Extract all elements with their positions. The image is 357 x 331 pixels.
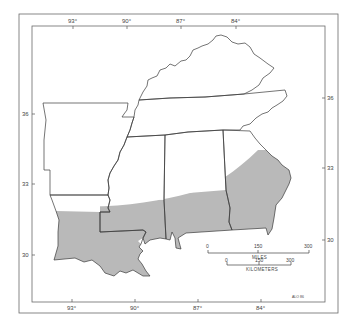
left-lat-label-30: 30	[22, 252, 29, 258]
right-lat-label-36: 36	[327, 95, 334, 101]
scale-km-300: 300	[286, 257, 295, 263]
map-credit: ALO 86	[292, 295, 304, 299]
right-lat-label-30: 30	[327, 237, 334, 243]
bottom-lon-label-84: 84°	[256, 305, 266, 311]
top-lon-label-87: 87°	[176, 18, 186, 24]
left-ticks	[32, 114, 35, 255]
scale-km-title: KILOMETERS	[246, 267, 278, 272]
left-lat-label-36: 36	[22, 111, 29, 117]
scale-miles-150: 150	[254, 243, 263, 249]
top-lon-label-93: 93°	[68, 18, 78, 24]
range-map: 93° 90° 87° 84° 93° 90° 87° 84° 36 33 30…	[0, 0, 357, 331]
bottom-lon-label-90: 90°	[130, 305, 140, 311]
bottom-lon-label-93: 93°	[67, 305, 77, 311]
right-lat-label-33: 33	[327, 165, 334, 171]
state-tennessee	[127, 90, 287, 137]
top-lon-label-90: 90°	[122, 18, 132, 24]
scale-bar-miles	[208, 250, 309, 253]
left-lat-label-33: 33	[22, 181, 29, 187]
scale-km-0: 0	[225, 257, 228, 263]
state-arkansas	[43, 103, 134, 195]
scale-km-150: 150	[255, 257, 264, 263]
top-ticks	[73, 26, 236, 29]
scale-miles-300: 300	[304, 243, 313, 249]
right-ticks	[322, 98, 325, 240]
outer-frame	[19, 14, 338, 313]
scale-miles-0: 0	[206, 243, 209, 249]
top-lon-label-84: 84°	[231, 18, 241, 24]
bottom-ticks	[72, 299, 261, 302]
bottom-lon-label-87: 87°	[193, 305, 203, 311]
state-kentucky	[139, 35, 274, 100]
